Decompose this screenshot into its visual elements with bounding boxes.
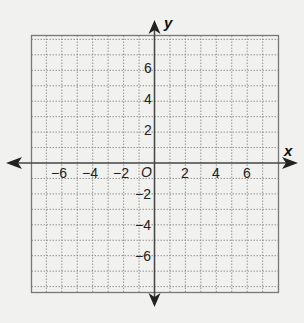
x-tick-label: 2	[181, 165, 189, 181]
x-axis	[6, 157, 298, 169]
y-tick-label: 2	[144, 122, 152, 138]
y-tick-label: 4	[144, 91, 152, 107]
coordinate-plane: y x O −6 −4 −2 2 4 6 6 4 2 −2 −4 −6	[0, 0, 304, 323]
x-axis-label: x	[283, 142, 293, 159]
x-tick-label: −6	[51, 165, 67, 181]
origin-label: O	[141, 164, 152, 180]
x-tick-label: 6	[243, 165, 251, 181]
x-tick-label: 4	[212, 165, 220, 181]
y-tick-label: −2	[135, 186, 151, 202]
y-tick-label: −6	[135, 248, 151, 264]
y-tick-label: −4	[135, 217, 151, 233]
y-tick-label: 6	[144, 60, 152, 76]
x-tick-label: −2	[113, 165, 129, 181]
x-tick-label: −4	[82, 165, 98, 181]
y-axis-label: y	[163, 14, 173, 31]
